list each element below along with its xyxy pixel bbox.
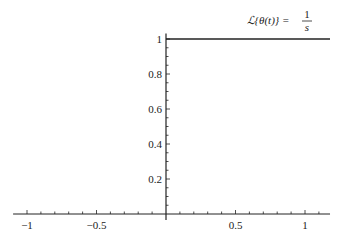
y-tick-label: 0.2 [148, 173, 162, 185]
title-lhs: ℒ{θ(t)} = [247, 14, 290, 27]
y-tick-label: 1 [157, 33, 163, 45]
x-tick-label: −0.5 [87, 219, 107, 231]
x-tick-label: 0.5 [229, 219, 243, 231]
x-tick-label: 1 [302, 219, 308, 231]
x-tick-label: −1 [21, 219, 33, 231]
y-tick-label: 0.8 [148, 68, 162, 80]
y-tick-label: 0.6 [148, 103, 162, 115]
y-tick-label: 0.4 [148, 138, 162, 150]
chart-title: ℒ{θ(t)} =1s [247, 8, 312, 33]
title-denominator: s [305, 21, 309, 33]
title-numerator: 1 [304, 8, 310, 20]
step-function-chart: −1−0.50.510.20.40.60.81 ℒ{θ(t)} =1s [0, 0, 345, 242]
tick-labels: −1−0.50.510.20.40.60.81 [21, 33, 308, 231]
axes [13, 34, 330, 221]
